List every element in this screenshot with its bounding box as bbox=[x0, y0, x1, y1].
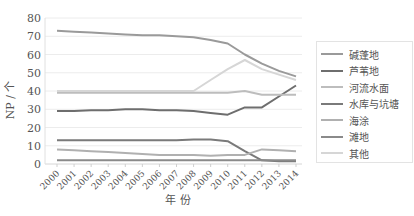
legend-label: 其他 bbox=[349, 146, 369, 161]
x-tick-label: 2014 bbox=[277, 168, 300, 191]
legend-line-icon bbox=[321, 70, 343, 72]
series-lines bbox=[57, 31, 296, 162]
legend-line-icon bbox=[321, 86, 343, 88]
legend-item: 河流水面 bbox=[321, 79, 412, 96]
legend-line-icon bbox=[321, 136, 343, 138]
legend: 碱蓬地 芦苇地 河流水面 水库与坑塘 海涂 滩地 其他 bbox=[316, 41, 413, 163]
x-axis-label: 年 份 bbox=[165, 193, 191, 207]
y-tick-label: 80 bbox=[27, 12, 41, 25]
y-tick-label: 0 bbox=[34, 158, 41, 171]
legend-item: 水库与坑塘 bbox=[321, 96, 412, 113]
x-axis: 2000200120022003200420052006200720082009… bbox=[38, 164, 302, 192]
series-line bbox=[57, 60, 296, 91]
legend-item: 海涂 bbox=[321, 112, 412, 129]
y-tick-label: 20 bbox=[27, 122, 41, 135]
legend-item: 其他 bbox=[321, 145, 412, 162]
y-tick-label: 50 bbox=[27, 67, 41, 80]
legend-line-icon bbox=[321, 119, 343, 121]
legend-label: 芦苇地 bbox=[349, 63, 379, 78]
y-axis-label: NP / 个 bbox=[4, 81, 17, 120]
legend-line-icon bbox=[321, 53, 343, 55]
y-axis: 01020304050607080 bbox=[27, 12, 45, 171]
y-tick-label: 10 bbox=[27, 140, 41, 153]
legend-label: 碱蓬地 bbox=[349, 47, 379, 62]
y-tick-label: 40 bbox=[27, 85, 41, 98]
legend-item: 碱蓬地 bbox=[321, 46, 412, 63]
series-line bbox=[57, 31, 296, 77]
legend-item: 芦苇地 bbox=[321, 63, 412, 80]
y-tick-label: 60 bbox=[27, 49, 41, 62]
legend-item: 滩地 bbox=[321, 129, 412, 146]
y-tick-label: 30 bbox=[27, 103, 41, 116]
legend-line-icon bbox=[321, 152, 343, 154]
legend-label: 水库与坑塘 bbox=[349, 96, 399, 111]
y-tick-label: 70 bbox=[27, 30, 41, 43]
legend-label: 河流水面 bbox=[349, 80, 389, 95]
legend-label: 滩地 bbox=[349, 129, 369, 144]
legend-label: 海涂 bbox=[349, 113, 369, 128]
series-line bbox=[57, 149, 296, 155]
series-line bbox=[57, 86, 296, 115]
legend-line-icon bbox=[321, 103, 343, 105]
